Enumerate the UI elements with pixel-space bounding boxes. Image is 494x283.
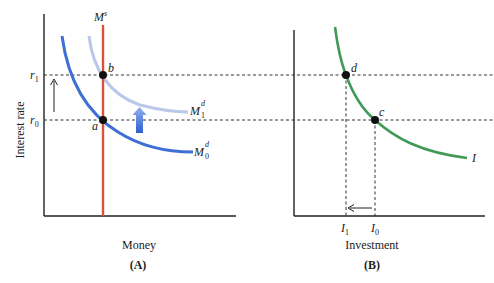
investment-curve-label: I bbox=[471, 151, 477, 165]
point-b bbox=[99, 71, 107, 79]
money-demand-1-sub: 1 bbox=[201, 111, 205, 120]
panel-b: d c I I1 I0 Investment (B) bbox=[294, 27, 485, 272]
money-supply-label: Ms bbox=[93, 9, 107, 24]
x-axis-label-money: Money bbox=[122, 238, 156, 252]
point-a-label: a bbox=[92, 119, 98, 133]
diagram-canvas: b a Ms M d 1 M d 0 r1 r0 Interest rate M… bbox=[0, 0, 494, 283]
i0-label: I0 bbox=[370, 221, 379, 237]
point-b-label: b bbox=[108, 61, 114, 75]
panel-a-caption: (A) bbox=[130, 258, 147, 272]
x-axis-label-investment: Investment bbox=[345, 238, 399, 252]
money-demand-1-sup: d bbox=[201, 99, 206, 108]
r0-label: r0 bbox=[30, 113, 39, 129]
point-c bbox=[371, 116, 379, 124]
investment-demand-curve bbox=[335, 27, 467, 158]
panel-a: b a Ms M d 1 M d 0 r1 r0 Interest rate M… bbox=[13, 9, 494, 272]
point-c-label: c bbox=[379, 105, 385, 119]
point-d bbox=[342, 71, 350, 79]
money-demand-0-label: M bbox=[193, 145, 205, 159]
point-d-label: d bbox=[351, 61, 358, 75]
point-a bbox=[99, 116, 107, 124]
money-demand-0-curve bbox=[62, 36, 193, 152]
money-demand-0-sub: 0 bbox=[205, 152, 209, 161]
panel-b-caption: (B) bbox=[364, 258, 380, 272]
r1-label: r1 bbox=[30, 68, 39, 84]
money-demand-1-label: M bbox=[189, 104, 201, 118]
y-axis-label: Interest rate bbox=[13, 102, 27, 159]
i1-label: I1 bbox=[340, 221, 349, 237]
money-demand-0-sup: d bbox=[205, 140, 210, 149]
